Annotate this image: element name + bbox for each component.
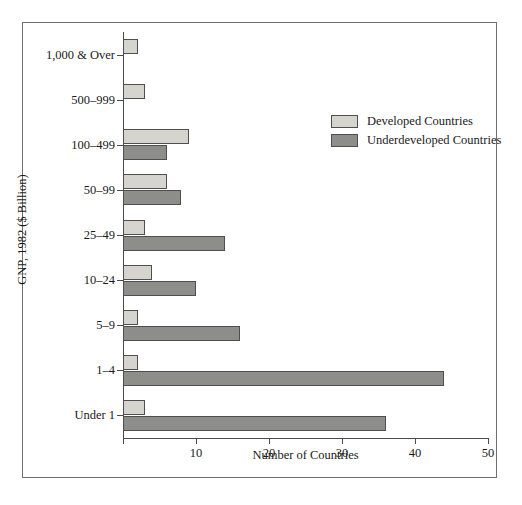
x-axis-line bbox=[123, 438, 488, 439]
legend-item-developed: Developed Countries bbox=[331, 113, 501, 130]
y-tick-label: 500–999 bbox=[71, 92, 115, 107]
bar-group: 5–9 bbox=[123, 310, 488, 341]
bar-developed bbox=[123, 220, 145, 235]
bar-developed bbox=[123, 129, 189, 144]
bar-developed bbox=[123, 39, 138, 54]
legend-label-developed: Developed Countries bbox=[367, 114, 473, 129]
y-tick-label: 1,000 & Over bbox=[46, 47, 115, 62]
x-tick-10 bbox=[196, 438, 197, 444]
bar-developed bbox=[123, 265, 152, 280]
bar-underdeveloped bbox=[123, 416, 386, 431]
bar-developed bbox=[123, 174, 167, 189]
bar-group: 10–24 bbox=[123, 265, 488, 296]
bar-group: 1,000 & Over bbox=[123, 39, 488, 70]
bar-underdeveloped bbox=[123, 281, 196, 296]
bar-developed bbox=[123, 355, 138, 370]
x-tick-0 bbox=[123, 438, 124, 444]
figure-bar-chart-gnp-number-of-countries: 1020304050 1,000 & Over500–999100–49950–… bbox=[0, 0, 522, 505]
plot-area: 1020304050 1,000 & Over500–999100–49950–… bbox=[123, 32, 488, 438]
chart-legend: Developed Countries Underdeveloped Count… bbox=[331, 113, 501, 151]
bar-underdeveloped bbox=[123, 326, 240, 341]
bar-underdeveloped bbox=[123, 371, 444, 386]
bar-group: Under 1 bbox=[123, 400, 488, 431]
bar-group: 500–999 bbox=[123, 84, 488, 115]
y-tick-label: 50–99 bbox=[84, 182, 115, 197]
x-tick-50 bbox=[488, 438, 489, 444]
y-tick bbox=[117, 55, 123, 56]
legend-swatch-developed-icon bbox=[331, 115, 358, 128]
legend-swatch-underdeveloped-icon bbox=[331, 134, 358, 147]
y-tick bbox=[117, 100, 123, 101]
y-tick-label: 5–9 bbox=[96, 318, 115, 333]
y-tick-label: Under 1 bbox=[74, 408, 115, 423]
y-tick-label: 1–4 bbox=[96, 363, 115, 378]
bar-developed bbox=[123, 400, 145, 415]
legend-item-underdeveloped: Underdeveloped Countries bbox=[331, 132, 501, 149]
bar-developed bbox=[123, 310, 138, 325]
y-axis-title: GNP, 1982 ($ Billion) bbox=[15, 40, 30, 420]
bar-underdeveloped bbox=[123, 190, 181, 205]
bar-developed bbox=[123, 84, 145, 99]
bar-underdeveloped bbox=[123, 236, 225, 251]
y-tick-label: 25–49 bbox=[84, 228, 115, 243]
x-tick-40 bbox=[415, 438, 416, 444]
x-axis-title: Number of Countries bbox=[123, 448, 488, 463]
y-tick-label: 10–24 bbox=[84, 273, 115, 288]
bar-group: 25–49 bbox=[123, 220, 488, 251]
bar-underdeveloped bbox=[123, 145, 167, 160]
x-tick-30 bbox=[342, 438, 343, 444]
bar-group: 50–99 bbox=[123, 174, 488, 205]
x-tick-20 bbox=[269, 438, 270, 444]
y-tick-label: 100–499 bbox=[71, 137, 115, 152]
bar-group: 1–4 bbox=[123, 355, 488, 386]
legend-label-underdeveloped: Underdeveloped Countries bbox=[367, 133, 501, 148]
